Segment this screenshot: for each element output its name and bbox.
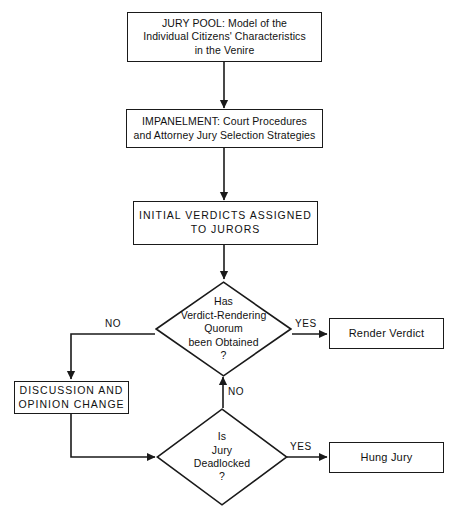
edge-label-quorum-no: NO	[105, 318, 121, 329]
edge-quorum-no-to-discussion	[71, 334, 155, 379]
flowchart-diagram: JURY POOL: Model of the Individual Citiz…	[0, 0, 452, 521]
node-render-verdict: Render Verdict	[329, 318, 444, 349]
edge-label-deadlock-yes: YES	[290, 441, 312, 452]
node-hung-jury-label: Hung Jury	[361, 450, 413, 464]
node-hung-jury: Hung Jury	[329, 442, 444, 473]
node-impanelment-label: IMPANELMENT: Court Procedures and Attorn…	[134, 115, 316, 142]
node-initial-verdicts-label: INITIAL VERDICTS ASSIGNED TO JURORS	[139, 209, 312, 236]
node-deadlock-decision: Is Jury Deadlocked ?	[156, 408, 288, 506]
edge-discussion-to-deadlock	[71, 414, 155, 457]
node-discussion: DISCUSSION AND OPINION CHANGE	[14, 381, 129, 414]
node-discussion-label: DISCUSSION AND OPINION CHANGE	[18, 384, 124, 411]
node-render-verdict-label: Render Verdict	[349, 326, 425, 340]
edge-label-deadlock-no: NO	[228, 386, 244, 397]
node-quorum-decision-label: Has Verdict-Rendering Quorum been Obtain…	[155, 281, 292, 377]
edge-label-quorum-yes: YES	[295, 318, 317, 329]
node-deadlock-decision-label: Is Jury Deadlocked ?	[156, 408, 288, 506]
node-initial-verdicts: INITIAL VERDICTS ASSIGNED TO JURORS	[133, 201, 318, 245]
node-jury-pool: JURY POOL: Model of the Individual Citiz…	[127, 12, 322, 62]
node-quorum-decision: Has Verdict-Rendering Quorum been Obtain…	[155, 281, 292, 377]
node-jury-pool-label: JURY POOL: Model of the Individual Citiz…	[143, 17, 306, 58]
node-impanelment: IMPANELMENT: Court Procedures and Attorn…	[126, 109, 323, 148]
